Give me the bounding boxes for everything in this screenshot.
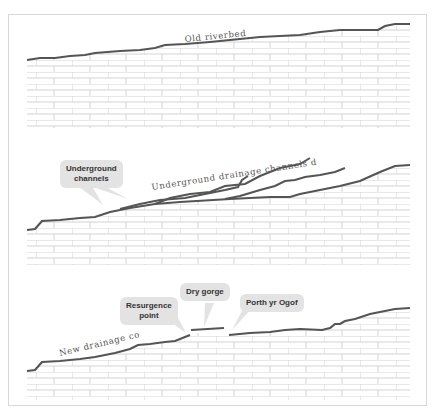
callout-line: Underground	[66, 164, 117, 174]
callout-underground-channels: Underground channels	[60, 160, 123, 188]
callout-line: Porth yr Ogof	[246, 298, 298, 308]
callout-line: Resurgence	[126, 301, 172, 311]
callout-line: Dry gorge	[186, 287, 224, 297]
callout-resurgence-point: Resurgence point	[120, 297, 178, 325]
panel-old-riverbed: Old riverbed	[27, 24, 410, 128]
callout-dry-gorge: Dry gorge	[180, 283, 230, 301]
diagram-svg: Old riverbed Underground drainage channe…	[0, 0, 434, 414]
dry-gorge-line	[191, 328, 224, 330]
callout-line: channels	[66, 174, 117, 184]
callout-porth-yr-ogof: Porth yr Ogof	[240, 294, 304, 312]
callout-pointer	[204, 303, 214, 327]
callout-line: point	[126, 311, 172, 321]
